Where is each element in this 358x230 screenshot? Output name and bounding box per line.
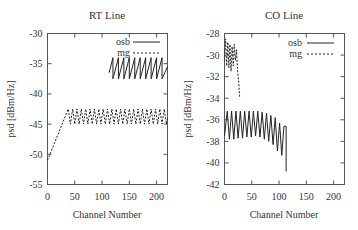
legend-label-mg: mg: [289, 48, 302, 59]
legend: osb mg: [116, 36, 160, 58]
x-tick-label: 0: [45, 191, 50, 202]
legend: osb mg: [288, 37, 334, 59]
x-tick-label: 100: [272, 191, 287, 202]
series-line-osb: [109, 58, 167, 79]
legend-label-mg: mg: [117, 47, 130, 58]
y-tick-label: -55: [29, 179, 42, 190]
x-tick-label: 150: [299, 191, 314, 202]
x-tick-label: 50: [247, 191, 257, 202]
y-tick-label: -30: [29, 28, 42, 39]
y-tick-label: -50: [29, 149, 42, 160]
chart-title: RT Line: [89, 9, 125, 21]
series-group: [48, 58, 168, 161]
legend-label-osb: osb: [288, 37, 302, 48]
y-tick-label: -30: [206, 50, 219, 61]
series-line-mg: [48, 109, 168, 160]
co-line-panel: CO Line -42-40-38-36-34-32-30-28 0501001…: [182, 9, 345, 220]
y-tick-label: -38: [206, 136, 219, 147]
x-tick-label: 150: [122, 191, 137, 202]
y-tick-label: -45: [29, 119, 42, 130]
y-tick-label: -36: [206, 114, 219, 125]
x-tick-label: 100: [95, 191, 110, 202]
rt-line-panel: RT Line -55-50-45-40-35-30 050100150200 …: [5, 9, 168, 220]
y-tick-label: -32: [206, 71, 219, 82]
series-group: [225, 39, 287, 172]
chart-canvas: RT Line -55-50-45-40-35-30 050100150200 …: [0, 0, 358, 230]
x-tick-label: 200: [326, 191, 341, 202]
y-axis-ticks: -42-40-38-36-34-32-30-28: [206, 28, 344, 190]
x-tick-label: 200: [149, 191, 164, 202]
x-axis-label: Channel Number: [250, 209, 319, 220]
x-axis-label: Channel Number: [73, 209, 142, 220]
y-tick-label: -35: [29, 58, 42, 69]
chart-title: CO Line: [265, 9, 303, 21]
x-tick-label: 50: [70, 191, 80, 202]
x-tick-label: 0: [222, 191, 227, 202]
y-axis-ticks: -55-50-45-40-35-30: [29, 28, 167, 190]
y-tick-label: -40: [29, 88, 42, 99]
y-tick-label: -34: [206, 93, 219, 104]
y-axis-label: psd [dBm/Hz]: [182, 81, 193, 138]
y-tick-label: -42: [206, 179, 219, 190]
y-tick-label: -28: [206, 28, 219, 39]
plot-frame: [225, 34, 345, 185]
y-tick-label: -40: [206, 157, 219, 168]
legend-label-osb: osb: [116, 36, 130, 47]
series-line-osb: [225, 111, 287, 171]
y-axis-label: psd [dBm/Hz]: [5, 81, 16, 138]
series-line-mg: [225, 39, 240, 98]
